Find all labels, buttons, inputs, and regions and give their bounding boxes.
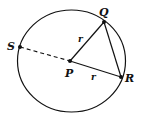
label-q: Q	[99, 6, 109, 19]
label-pr-r: r	[91, 72, 97, 82]
label-p: P	[64, 67, 74, 80]
point-r	[119, 75, 123, 79]
point-s	[18, 45, 22, 49]
segment-pq	[70, 22, 104, 61]
segment-sp-dashed	[20, 47, 70, 61]
label-r: R	[124, 72, 134, 85]
label-s: S	[7, 40, 15, 53]
label-pq-r: r	[78, 34, 84, 44]
point-q	[102, 20, 106, 24]
segment-qr	[104, 22, 121, 77]
point-p	[68, 59, 72, 63]
circle-diagram: S P Q R r r	[0, 0, 141, 117]
